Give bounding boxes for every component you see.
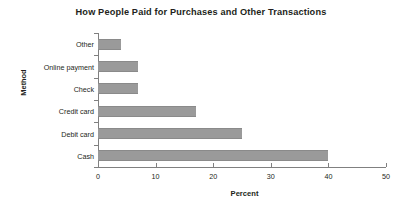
- x-axis-tick-label: 50: [373, 172, 399, 181]
- x-axis-line: [98, 167, 386, 168]
- x-axis-tick-mark: [156, 163, 157, 167]
- y-axis-tick-mark: [94, 100, 98, 101]
- bar-row: [98, 150, 386, 161]
- x-axis-tick-mark: [328, 163, 329, 167]
- x-axis-tick-label: 30: [258, 172, 284, 181]
- x-axis-tick-mark: [98, 163, 99, 167]
- y-axis-tick-mark: [94, 122, 98, 123]
- y-axis-tick-mark: [94, 55, 98, 56]
- y-axis-tick-label: Cash: [10, 151, 94, 160]
- y-axis-tick-label: Debit card: [10, 129, 94, 138]
- x-axis-tick-label: 20: [200, 172, 226, 181]
- y-axis-tick-label: Other: [10, 40, 94, 49]
- x-axis-tick-label: 40: [315, 172, 341, 181]
- y-axis-tick-mark: [94, 33, 98, 34]
- bar: [98, 150, 328, 161]
- bar-chart: How People Paid for Purchases and Other …: [0, 0, 402, 210]
- bar-row: [98, 61, 386, 72]
- y-axis-tick-label: Credit card: [10, 107, 94, 116]
- y-axis-tick-label: Check: [10, 84, 94, 93]
- x-axis-tick-label: 0: [85, 172, 111, 181]
- chart-title: How People Paid for Purchases and Other …: [0, 7, 402, 17]
- bar-row: [98, 39, 386, 50]
- y-axis-tick-mark: [94, 167, 98, 168]
- bar: [98, 128, 242, 139]
- y-axis-tick-label: Online payment: [10, 62, 94, 71]
- bar: [98, 39, 121, 50]
- x-axis-tick-label: 10: [143, 172, 169, 181]
- y-axis-tick-mark: [94, 78, 98, 79]
- x-axis-tick-mark: [386, 163, 387, 167]
- x-axis-tick-mark: [213, 163, 214, 167]
- x-axis-title: Percent: [98, 189, 391, 198]
- bar-row: [98, 128, 386, 139]
- bar-row: [98, 83, 386, 94]
- x-axis-tick-mark: [271, 163, 272, 167]
- y-axis-tick-mark: [94, 145, 98, 146]
- y-axis-tick-labels: CashDebit cardCredit cardCheckOnline pay…: [8, 33, 94, 167]
- plot-area: [98, 33, 386, 167]
- bar-row: [98, 106, 386, 117]
- bar: [98, 83, 138, 94]
- bar: [98, 106, 196, 117]
- bar: [98, 61, 138, 72]
